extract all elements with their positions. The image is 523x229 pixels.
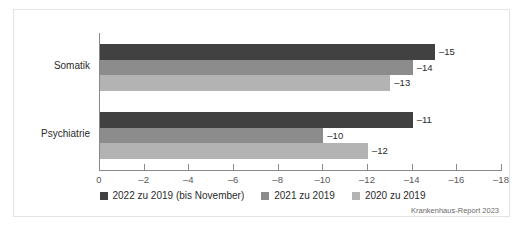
x-axis-tick [456, 164, 457, 171]
y-axis-label-somatik: Somatik [54, 60, 90, 71]
x-axis-tick-label: –10 [314, 174, 330, 185]
x-axis-tick [367, 164, 368, 171]
bar-value-label: –10 [327, 130, 343, 141]
x-axis-tick [144, 164, 145, 171]
bar-value-label: –12 [372, 145, 388, 156]
x-axis-tick-label: –8 [272, 174, 283, 185]
chart-legend: 2022 zu 2019 (bis November)2021 zu 20192… [14, 190, 511, 201]
chart-credit: Krankenhaus-Report 2023 [411, 206, 499, 215]
x-axis-tick [188, 164, 189, 171]
y-axis-labels: Somatik Psychiatrie [14, 33, 99, 170]
legend-item[interactable]: 2021 zu 2019 [261, 190, 335, 201]
bar [100, 44, 435, 60]
x-axis-tick [99, 164, 100, 171]
chart-figure: Somatik Psychiatrie 0–2–4–6–8–10–12–14–1… [0, 0, 523, 229]
x-axis-tick-label: –18 [493, 174, 509, 185]
x-axis-tick-label: –12 [359, 174, 375, 185]
legend-item-label: 2020 zu 2019 [365, 190, 426, 201]
x-axis-tick-label: 0 [96, 174, 101, 185]
x-axis-tick-label: –6 [228, 174, 239, 185]
plot-area: 0–2–4–6–8–10–12–14–16–18 –15–14–13–11–10… [99, 33, 501, 170]
x-axis-tick-label: –16 [448, 174, 464, 185]
bar-value-label: –14 [417, 62, 433, 73]
chart-frame: Somatik Psychiatrie 0–2–4–6–8–10–12–14–1… [13, 9, 510, 217]
x-axis-tick-label: –2 [138, 174, 149, 185]
bar [100, 128, 323, 144]
bar-value-label: –13 [394, 77, 410, 88]
legend-swatch-icon [352, 192, 360, 200]
legend-item-label: 2022 zu 2019 (bis November) [113, 190, 245, 201]
legend-swatch-icon [261, 192, 269, 200]
bar [100, 60, 413, 76]
bar [100, 75, 390, 91]
x-axis-line [99, 170, 501, 171]
bar [100, 143, 368, 159]
x-axis-tick [233, 164, 234, 171]
y-axis-label-psychiatrie: Psychiatrie [41, 128, 90, 139]
x-axis-tick-label: –4 [183, 174, 194, 185]
x-axis-tick [412, 164, 413, 171]
x-axis-tick [278, 164, 279, 171]
legend-swatch-icon [100, 192, 108, 200]
x-axis-tick [322, 164, 323, 171]
bar [100, 112, 413, 128]
bar-value-label: –15 [439, 46, 455, 57]
x-axis-tick [501, 164, 502, 171]
legend-item-label: 2021 zu 2019 [274, 190, 335, 201]
x-axis-tick-label: –14 [404, 174, 420, 185]
legend-item[interactable]: 2022 zu 2019 (bis November) [100, 190, 245, 201]
legend-item[interactable]: 2020 zu 2019 [352, 190, 426, 201]
bar-value-label: –11 [417, 114, 432, 125]
